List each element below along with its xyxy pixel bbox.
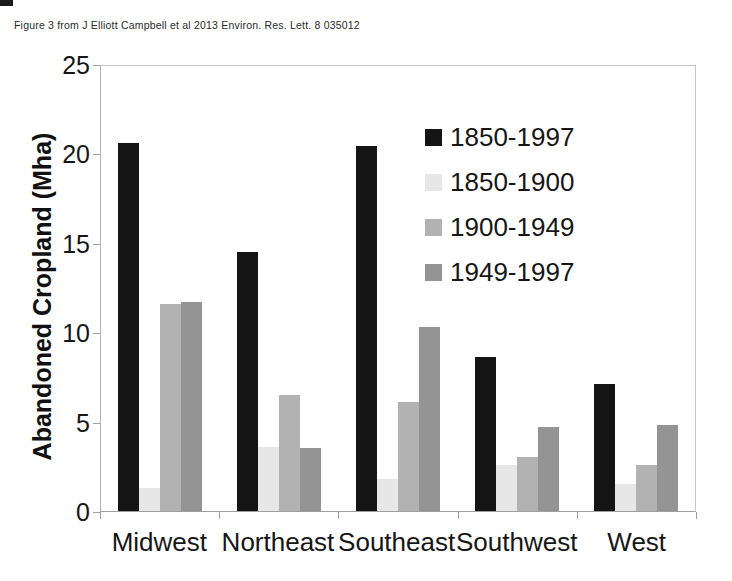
bar-southwest-1949-1997 bbox=[538, 427, 559, 511]
x-category-label: Northeast bbox=[219, 527, 338, 558]
x-category-label: West bbox=[577, 527, 696, 558]
y-tick-label: 20 bbox=[0, 140, 90, 168]
x-tick-mark bbox=[458, 512, 459, 519]
legend-swatch bbox=[425, 129, 442, 146]
legend-label: 1949-1997 bbox=[450, 257, 574, 288]
bar-southwest-1900-1949 bbox=[517, 457, 538, 511]
bar-west-1850-1900 bbox=[615, 484, 636, 511]
y-tick-label: 10 bbox=[0, 319, 90, 347]
bar-northeast-1850-1997 bbox=[237, 252, 258, 511]
y-tick-mark bbox=[93, 244, 100, 245]
x-tick-mark bbox=[577, 512, 578, 519]
bar-southeast-1900-1949 bbox=[398, 402, 419, 511]
y-tick-label: 15 bbox=[0, 230, 90, 258]
bar-group-midwest bbox=[100, 64, 219, 511]
x-tick-mark bbox=[338, 512, 339, 519]
y-tick-label: 5 bbox=[0, 409, 90, 437]
bar-southeast-1949-1997 bbox=[419, 327, 440, 511]
bar-northeast-1949-1997 bbox=[300, 448, 321, 511]
legend-label: 1850-1900 bbox=[450, 167, 574, 198]
legend-swatch bbox=[425, 264, 442, 281]
x-category-label: Midwest bbox=[100, 527, 219, 558]
bar-group-west bbox=[577, 64, 696, 511]
legend-label: 1850-1997 bbox=[450, 122, 574, 153]
y-tick-mark bbox=[93, 333, 100, 334]
y-tick-mark bbox=[93, 65, 100, 66]
bar-southwest-1850-1900 bbox=[496, 465, 517, 511]
chart-legend: 1850-19971850-19001900-19491949-1997 bbox=[425, 123, 574, 303]
bar-northeast-1900-1949 bbox=[279, 395, 300, 511]
bar-west-1850-1997 bbox=[594, 384, 615, 511]
legend-label: 1900-1949 bbox=[450, 212, 574, 243]
bar-midwest-1850-1997 bbox=[118, 143, 139, 511]
figure-page: { "caption": "Figure 3 from J Elliott Ca… bbox=[0, 0, 732, 581]
x-tick-mark bbox=[100, 512, 101, 519]
bar-northeast-1850-1900 bbox=[258, 447, 279, 511]
y-tick-mark bbox=[93, 512, 100, 513]
bar-west-1900-1949 bbox=[636, 465, 657, 511]
plot-area bbox=[100, 65, 696, 512]
x-tick-mark bbox=[696, 512, 697, 519]
bar-southwest-1850-1997 bbox=[475, 357, 496, 511]
x-axis-labels: MidwestNortheastSoutheastSouthwestWest bbox=[100, 527, 696, 558]
y-tick-mark bbox=[93, 423, 100, 424]
bar-southeast-1850-1997 bbox=[356, 146, 377, 511]
y-tick-label: 25 bbox=[0, 51, 90, 79]
bar-southeast-1850-1900 bbox=[377, 479, 398, 511]
bar-midwest-1900-1949 bbox=[160, 304, 181, 511]
x-category-label: Southeast bbox=[337, 527, 456, 558]
legend-item: 1949-1997 bbox=[425, 258, 574, 286]
x-tick-mark bbox=[219, 512, 220, 519]
bar-group-northeast bbox=[219, 64, 338, 511]
legend-item: 1850-1900 bbox=[425, 168, 574, 196]
bar-west-1949-1997 bbox=[657, 425, 678, 511]
bar-midwest-1850-1900 bbox=[139, 488, 160, 511]
y-tick-mark bbox=[93, 154, 100, 155]
bar-midwest-1949-1997 bbox=[181, 302, 202, 511]
legend-swatch bbox=[425, 219, 442, 236]
y-tick-label: 0 bbox=[0, 498, 90, 526]
legend-swatch bbox=[425, 174, 442, 191]
legend-item: 1900-1949 bbox=[425, 213, 574, 241]
bar-chart: Abandoned Cropland (Mha) MidwestNortheas… bbox=[0, 0, 732, 581]
legend-item: 1850-1997 bbox=[425, 123, 574, 151]
x-category-label: Southwest bbox=[456, 527, 577, 558]
